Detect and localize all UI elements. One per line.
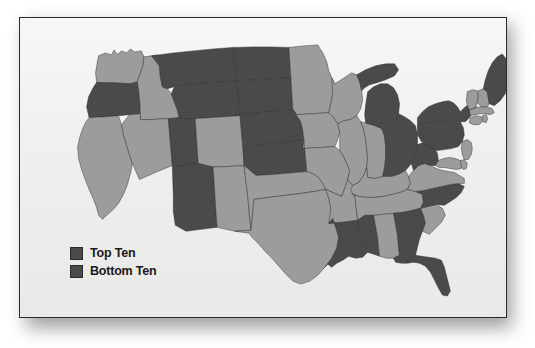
state-arizona[interactable] [172,164,217,232]
state-connecticut[interactable] [469,116,482,125]
legend-label-top-ten: Top Ten [90,247,135,260]
map-figure-panel: Top Ten Bottom Ten [19,17,507,318]
legend-swatch-bottom-ten [70,265,83,278]
state-new-jersey[interactable] [461,140,472,160]
state-colorado[interactable] [195,116,244,167]
state-north-dakota[interactable] [233,47,291,81]
state-utah[interactable] [168,118,198,167]
state-oregon[interactable] [87,82,141,118]
state-minnesota[interactable] [289,45,335,115]
legend-item-top-ten: Top Ten [70,246,157,261]
legend-item-bottom-ten: Bottom Ten [70,264,157,279]
legend-swatch-top-ten [70,247,83,260]
state-south-dakota[interactable] [237,78,293,116]
state-rhode-island[interactable] [482,115,487,123]
state-florida[interactable] [394,255,451,296]
state-maryland[interactable] [435,158,463,170]
legend-label-bottom-ten: Bottom Ten [90,265,157,278]
state-wisconsin[interactable] [329,73,363,124]
state-washington[interactable] [96,49,144,84]
map-legend: Top Ten Bottom Ten [70,246,157,279]
state-wyoming[interactable] [171,81,240,119]
